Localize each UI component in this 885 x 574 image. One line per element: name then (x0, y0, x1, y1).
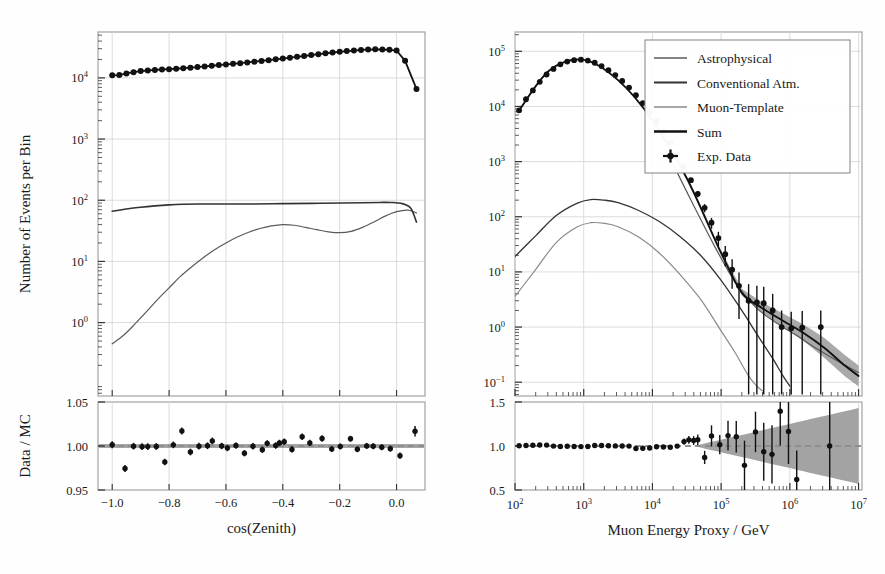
left-ratio-point (242, 451, 247, 456)
left-ratio-point (260, 447, 265, 452)
right-ratio-point (571, 444, 576, 449)
ytick-label-0: 100 (71, 314, 88, 330)
left-data-point (308, 52, 314, 58)
right-ratio-point (544, 442, 549, 447)
left-data-point (166, 66, 172, 72)
right-ratio-point (778, 409, 783, 414)
right-ratio-point (761, 449, 766, 454)
right-data-point (695, 191, 701, 197)
right-xlabel: Muon Energy Proxy / GeV (607, 522, 769, 538)
right-ratio-point (686, 437, 691, 442)
right-data-point (571, 57, 577, 63)
left-data-point (351, 48, 357, 54)
left-ratio-point (154, 444, 159, 449)
left-data-point (287, 55, 293, 61)
left-data-point (273, 56, 279, 62)
left-ratio-point (196, 443, 201, 448)
ratio-xtick-label-1: −0.8 (158, 496, 181, 510)
left-ratio-point (145, 444, 150, 449)
left-ratio-point (282, 439, 287, 444)
left-data-point (159, 67, 165, 73)
left-ratio-point (355, 447, 360, 452)
left-ratio-point (171, 442, 176, 447)
legend: AstrophysicalConventional Atm.Muon-Templ… (645, 40, 850, 173)
right-data-point (537, 79, 543, 85)
right-data-point (709, 220, 715, 226)
left-data-point (315, 51, 321, 57)
left-data-point (216, 62, 222, 68)
right-data-point (557, 61, 563, 67)
left-data-point (195, 64, 201, 70)
right-ratio-point (613, 443, 618, 448)
left-data-point (365, 47, 371, 53)
right-ratio-point (640, 446, 645, 451)
left-data-point (152, 67, 158, 73)
rr-xtick-label-3: 105 (713, 496, 730, 512)
right-ratio-point (702, 455, 707, 460)
ytick-label-2: 102 (71, 192, 88, 208)
rr-ytick-label-0: 0.5 (489, 484, 505, 498)
left-ratio-point (307, 440, 312, 445)
right-data-point (564, 59, 570, 65)
legend-label-0: Astrophysical (697, 51, 772, 66)
left-data-point (138, 68, 144, 74)
right-data-point (544, 72, 550, 78)
left-ratio-point (122, 466, 127, 471)
left-data-point (230, 61, 236, 67)
right-data-point (530, 88, 536, 94)
ytick-label-4: 104 (71, 69, 89, 85)
r-ytick-label-1: 100 (488, 319, 505, 335)
left-ratio-point (388, 446, 393, 451)
right-data-point (516, 107, 522, 113)
left-top-panel: 100101102103104 (71, 32, 425, 396)
left-data-point (294, 54, 300, 60)
r-ytick-label-2: 101 (488, 263, 505, 279)
right-ratio-point (523, 443, 528, 448)
right-ratio-point (565, 444, 570, 449)
left-ratio-point (131, 443, 136, 448)
rr-xtick-label-5: 107 (850, 496, 867, 512)
right-ratio-point (661, 444, 666, 449)
right-data-point (592, 60, 598, 66)
right-ratio-point (578, 444, 583, 449)
right-ratio-point (742, 463, 747, 468)
left-data-point (209, 63, 215, 69)
left-data-point (301, 53, 307, 59)
left-data-point (280, 56, 286, 62)
right-ratio-point (551, 443, 556, 448)
right-ratio-point (619, 443, 624, 448)
left-ratio-point (162, 459, 167, 464)
right-ratio-point (786, 429, 791, 434)
right-ratio-point (606, 443, 611, 448)
rr-xtick-label-4: 106 (781, 496, 798, 512)
r-ytick-label-6: 105 (488, 43, 505, 59)
left-data-point (131, 69, 137, 75)
left-data-point (173, 66, 179, 72)
left-ratio-point (264, 441, 269, 446)
right-ratio-point (709, 433, 714, 438)
right-data-point (599, 63, 605, 69)
left-ratio-point (371, 443, 376, 448)
left-data-point (237, 60, 243, 66)
right-data-point (729, 267, 735, 273)
left-data-point (402, 58, 408, 64)
right-ratio-point (695, 437, 700, 442)
right-ratio-point (668, 445, 673, 450)
left-data-point (202, 63, 208, 69)
left-ratio-point (233, 443, 238, 448)
left-data-point (187, 65, 193, 71)
left-ratio-ylabel-group: Data / MC (17, 414, 33, 477)
left-ratio-panel: 0.951.001.05−1.0−0.8−0.6−0.4−0.20.0 (66, 396, 425, 511)
right-data-point (715, 235, 721, 241)
r-ytick-label-4: 103 (488, 153, 505, 169)
right-ratio-panel: 0.51.01.5102103104105106107 (489, 377, 867, 512)
left-ratio-point (299, 434, 304, 439)
right-ratio-point (769, 452, 774, 457)
right-data-point (633, 92, 639, 98)
left-ratio-point (210, 438, 215, 443)
right-ratio-point (794, 477, 799, 482)
left-data-point (330, 50, 336, 56)
rr-xtick-label-0: 102 (507, 496, 524, 512)
left-data-point (337, 49, 343, 55)
ratio-xtick-label-0: −1.0 (101, 496, 124, 510)
